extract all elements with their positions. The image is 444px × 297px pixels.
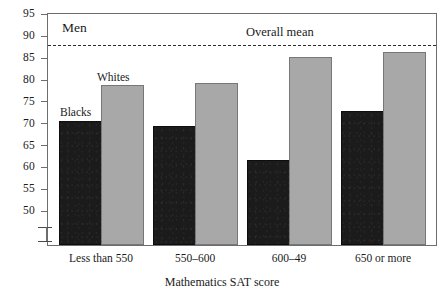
y-axis: 95 90 85 80 75 70 65 60 55 50 — [0, 0, 47, 260]
y-tick-mark-60 — [41, 167, 47, 168]
bar-whites-600-49 — [289, 57, 332, 245]
y-tick-label-85: 85 — [23, 52, 35, 64]
bar-blacks-less-than-550 — [59, 121, 102, 245]
axis-break-connector — [46, 227, 47, 241]
overall-mean-label: Overall mean — [246, 26, 314, 39]
bar-whites-less-than-550 — [101, 85, 144, 245]
axis-break-upper-mark — [38, 227, 52, 228]
bar-blacks-550-600 — [153, 126, 196, 245]
bar-blacks-600-49 — [247, 160, 290, 245]
x-tick-label-less-than-550: Less than 550 — [69, 252, 133, 264]
bar-whites-650-or-more — [383, 52, 426, 245]
y-tick-mark-70 — [41, 123, 47, 124]
y-tick-mark-50 — [41, 211, 47, 212]
overall-mean-line — [48, 45, 436, 46]
x-tick-label-650-or-more: 650 or more — [355, 252, 411, 264]
y-tick-mark-85 — [41, 58, 47, 59]
series-label-blacks: Blacks — [60, 106, 91, 119]
axis-break-lower-mark — [38, 241, 52, 242]
y-tick-label-75: 75 — [23, 96, 35, 108]
y-tick-mark-90 — [41, 36, 47, 37]
x-tick-label-600-49: 600–49 — [272, 252, 307, 264]
panel-title: Men — [62, 21, 87, 34]
x-tick-label-550-600: 550–600 — [175, 252, 215, 264]
y-tick-mark-65 — [41, 145, 47, 146]
bar-whites-550-600 — [195, 83, 238, 245]
bar-chart: Men Overall mean Blacks Whites 95 90 — [0, 0, 444, 297]
y-tick-label-50: 50 — [23, 205, 35, 217]
y-tick-mark-95 — [41, 14, 47, 15]
y-tick-mark-55 — [41, 189, 47, 190]
y-tick-label-55: 55 — [23, 183, 35, 195]
y-tick-label-80: 80 — [23, 74, 35, 86]
y-tick-label-95: 95 — [23, 8, 35, 20]
bar-blacks-650-or-more — [341, 111, 384, 245]
y-tick-mark-75 — [41, 101, 47, 102]
y-tick-label-90: 90 — [23, 30, 35, 42]
x-axis-title: Mathematics SAT score — [0, 276, 444, 288]
y-tick-mark-80 — [41, 80, 47, 81]
series-label-whites: Whites — [97, 71, 130, 84]
y-tick-label-65: 65 — [23, 140, 35, 152]
y-tick-label-60: 60 — [23, 161, 35, 173]
plot-area: Men Overall mean Blacks Whites — [47, 13, 437, 246]
y-tick-label-70: 70 — [23, 118, 35, 130]
